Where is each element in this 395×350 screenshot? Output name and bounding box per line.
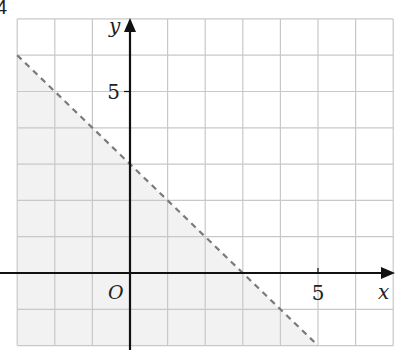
question-number: 4	[0, 0, 7, 19]
y-axis-label: y	[108, 14, 121, 38]
x-tick-label: 5	[312, 281, 325, 305]
inequality-graph: 4 x y O 55	[0, 0, 395, 350]
y-tick-label: 5	[107, 80, 120, 104]
origin-label: O	[108, 281, 124, 303]
x-axis-label: x	[378, 280, 389, 304]
y-axis-arrow-icon	[124, 18, 136, 32]
plot-area: x y O 55	[0, 0, 395, 350]
